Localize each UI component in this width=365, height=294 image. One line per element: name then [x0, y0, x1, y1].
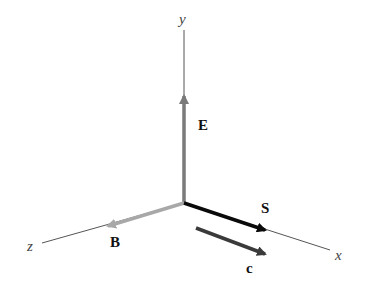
em-wave-vector-diagram: y z x E B S c: [0, 0, 365, 294]
wave-velocity-arrow: [196, 228, 265, 254]
poynting-vector-label: S: [261, 200, 269, 216]
poynting-vector-arrow: [184, 203, 265, 230]
y-axis-label: y: [177, 11, 186, 27]
b-field-label: B: [110, 234, 120, 250]
e-field-label: E: [198, 117, 208, 133]
z-axis-label: z: [26, 238, 33, 254]
x-axis-label: x: [334, 247, 342, 263]
b-field-arrow: [108, 203, 184, 226]
wave-velocity-label: c: [246, 260, 253, 276]
